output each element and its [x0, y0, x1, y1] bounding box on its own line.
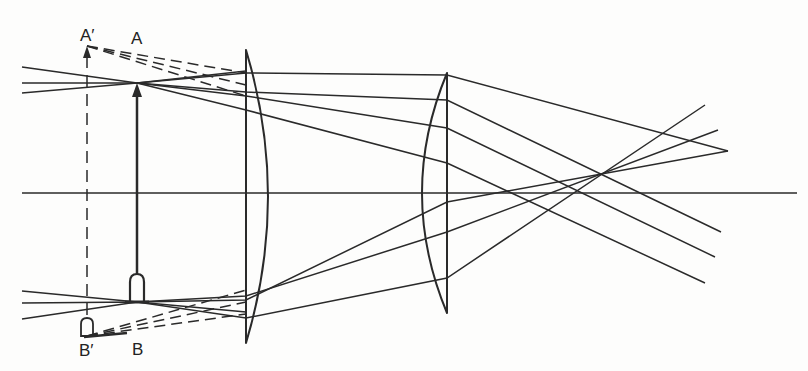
arrowhead-icon: [132, 83, 142, 97]
object-base-icon: [130, 274, 144, 302]
image-base-icon: [81, 318, 93, 336]
virtual-image-arrow: [81, 46, 127, 337]
image-arrowhead-icon: [83, 46, 91, 58]
label-a: A: [131, 30, 142, 47]
solid-ray: [137, 83, 715, 257]
solid-ray: [22, 105, 705, 318]
solid-ray: [22, 73, 728, 151]
label-b: B: [132, 341, 143, 358]
solid-ray: [22, 67, 721, 232]
dashed-ray: [87, 302, 246, 336]
dashed-ray: [87, 290, 246, 336]
diagram-canvas: [0, 0, 808, 371]
solid-ray: [137, 151, 728, 302]
solid-ray: [22, 130, 718, 319]
dashed-ray: [87, 46, 246, 73]
dashed-ray: [87, 46, 246, 96]
optical-diagram: A′ A B′ B: [0, 0, 808, 371]
label-a-prime: A′: [80, 27, 95, 44]
dashed-ray: [87, 314, 246, 336]
label-b-prime: B′: [79, 342, 94, 359]
